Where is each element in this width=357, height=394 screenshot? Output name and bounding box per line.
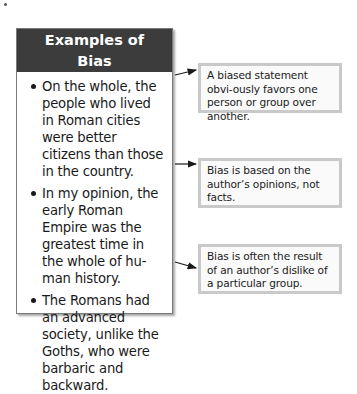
callout-dislike: Bias is often the result of an author’s … <box>198 244 342 294</box>
arrow-3 <box>175 262 196 268</box>
callout-text: Bias is often the result of an author’s … <box>207 250 328 289</box>
callout-favors: A biased statement obvi-ously favors one… <box>198 63 342 113</box>
callout-opinions: Bias is based on the author’s opinions, … <box>198 158 342 208</box>
arrow-1 <box>175 70 196 75</box>
callout-text: Bias is based on the author’s opinions, … <box>207 164 319 203</box>
